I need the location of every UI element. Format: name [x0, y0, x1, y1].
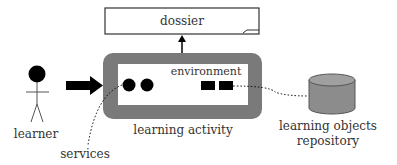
learning-object-square-icon	[219, 81, 233, 90]
service-circle-icon	[141, 79, 154, 92]
arrowhead-up-icon	[178, 35, 186, 42]
learner-node: learner	[14, 66, 59, 142]
learner-label: learner	[14, 127, 59, 141]
dossier-node: dossier	[105, 8, 259, 34]
repository-label-line1: learning objects	[279, 119, 377, 133]
service-circle-icon	[123, 79, 136, 92]
learning-object-square-icon	[201, 81, 215, 90]
cylinder-top-icon	[309, 74, 355, 86]
services-label: services	[60, 147, 110, 161]
arrowhead-right-icon	[90, 76, 103, 95]
learning-activity-node: environment learning activity	[103, 53, 262, 137]
environment-label: environment	[171, 65, 242, 78]
learning-activity-label: learning activity	[133, 123, 233, 137]
repository-node: learning objects repository	[279, 74, 377, 148]
dossier-label: dossier	[160, 14, 204, 28]
learner-to-activity-arrow	[66, 76, 103, 95]
learner-head-icon	[29, 66, 46, 83]
diagram-canvas: dossier environment learning activity le…	[0, 0, 397, 165]
repository-label-line2: repository	[297, 134, 360, 148]
